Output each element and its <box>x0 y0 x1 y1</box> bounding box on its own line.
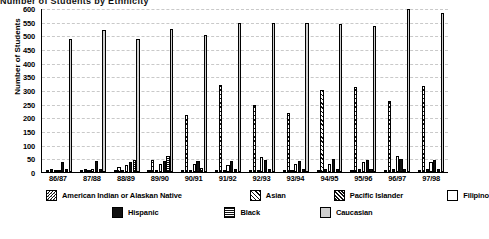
bar <box>226 165 229 172</box>
bar <box>200 168 203 172</box>
bar <box>54 170 57 172</box>
bar <box>65 169 68 172</box>
bar <box>268 169 271 172</box>
bar <box>84 169 87 172</box>
bar <box>422 86 425 172</box>
bar <box>336 169 339 172</box>
y-axis-tick-label: 400 <box>23 59 35 68</box>
bar <box>95 161 98 172</box>
bar-group <box>177 9 211 172</box>
legend-swatch-asian <box>250 190 261 201</box>
bar-group <box>143 9 177 172</box>
x-axis-tick-label: 92/93 <box>245 174 279 186</box>
y-axis-tick-label: 0 <box>31 169 35 178</box>
legend-swatch-american_indian <box>46 190 57 201</box>
bar <box>181 170 184 172</box>
bar <box>257 170 260 172</box>
bar <box>354 87 357 172</box>
bar <box>80 170 83 172</box>
bar <box>388 101 391 172</box>
x-axis-tick-label: 91/92 <box>211 174 245 186</box>
bar <box>114 170 117 172</box>
legend-label-caucasian: Caucasian <box>336 208 373 217</box>
bar-group <box>380 9 414 172</box>
legend-item-asian: Asian <box>250 190 286 201</box>
bar <box>403 169 406 172</box>
bar <box>264 160 267 172</box>
bar <box>328 164 331 172</box>
bar-groups <box>42 9 448 172</box>
bar <box>437 169 440 172</box>
y-axis-tick-label: 200 <box>23 114 35 123</box>
bar <box>136 39 139 172</box>
legend-item-caucasian: Caucasian <box>320 207 373 218</box>
legend-item-hispanic: Hispanic <box>112 207 158 218</box>
y-axis-tick-label: 550 <box>23 18 35 27</box>
bar-group <box>42 9 76 172</box>
x-axis-tick-label: 95/96 <box>346 174 380 186</box>
bar <box>290 170 293 172</box>
bar <box>91 169 94 172</box>
bar-group <box>414 9 448 172</box>
bar <box>260 157 263 172</box>
bar <box>57 170 60 172</box>
bar <box>121 170 124 172</box>
bar-group <box>76 9 110 172</box>
legend-swatch-black <box>224 207 235 218</box>
bar <box>219 85 222 172</box>
bar <box>426 169 429 172</box>
legend: American Indian or Alaskan NativeAsianPa… <box>0 190 452 218</box>
legend-swatch-filipino <box>447 190 458 201</box>
legend-item-black: Black <box>224 207 260 218</box>
bar <box>317 170 320 172</box>
x-axis-tick-label: 96/97 <box>380 174 414 186</box>
bar <box>324 169 327 172</box>
legend-label-american_indian: American Indian or Alaskan Native <box>62 191 182 200</box>
bar <box>287 113 290 172</box>
y-axis-tick-label: 450 <box>23 46 35 55</box>
bar-group <box>110 9 144 172</box>
x-axis-tick-label: 86/87 <box>41 174 75 186</box>
bar <box>373 26 376 172</box>
bar <box>407 9 410 172</box>
y-axis-tick-label: 300 <box>23 87 35 96</box>
bar <box>384 170 387 172</box>
bar <box>298 161 301 172</box>
bar <box>418 170 421 172</box>
bar <box>193 164 196 172</box>
legend-label-filipino: Filipino <box>463 191 489 200</box>
bar <box>230 161 233 172</box>
bar <box>223 170 226 172</box>
bar <box>69 39 72 172</box>
legend-item-pacific_islander: Pacific Islander <box>334 190 403 201</box>
bar <box>272 23 275 172</box>
y-axis-tick-label: 50 <box>27 155 35 164</box>
bar <box>166 156 169 172</box>
bar-group <box>346 9 380 172</box>
y-axis-ticks: 600550500450400350300250200150100500 <box>0 9 38 173</box>
bar <box>320 90 323 172</box>
y-axis-tick-label: 350 <box>23 73 35 82</box>
bar-group <box>245 9 279 172</box>
bar-group <box>279 9 313 172</box>
bar <box>234 169 237 172</box>
bar <box>429 162 432 172</box>
legend-label-black: Black <box>240 208 260 217</box>
bar <box>305 23 308 172</box>
legend-swatch-caucasian <box>320 207 331 218</box>
bar <box>441 13 444 172</box>
bar <box>369 169 372 172</box>
y-axis-tick-label: 500 <box>23 32 35 41</box>
bar <box>339 24 342 172</box>
bar-group <box>313 9 347 172</box>
bar <box>163 161 166 172</box>
legend-label-hispanic: Hispanic <box>128 208 158 217</box>
bar <box>147 170 150 172</box>
y-axis-tick-label: 250 <box>23 100 35 109</box>
legend-swatch-hispanic <box>112 207 123 218</box>
x-axis-tick-label: 93/94 <box>278 174 312 186</box>
legend-label-pacific_islander: Pacific Islander <box>350 191 403 200</box>
x-axis-tick-label: 88/89 <box>109 174 143 186</box>
legend-swatch-pacific_islander <box>334 190 345 201</box>
